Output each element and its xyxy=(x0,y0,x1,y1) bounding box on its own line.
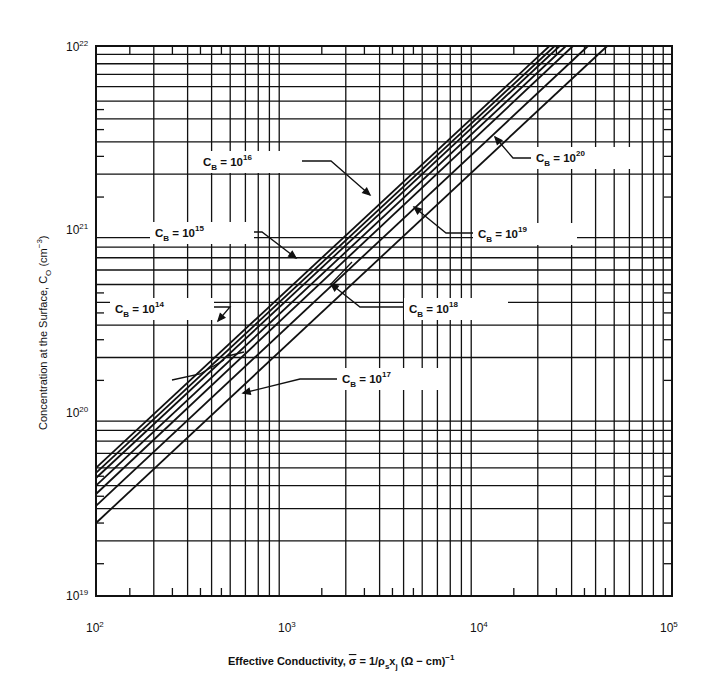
curve-17 xyxy=(96,46,566,486)
leader-line xyxy=(302,161,370,195)
arrowhead xyxy=(243,388,251,394)
x-tick-label: 102 xyxy=(86,620,104,635)
curve-16 xyxy=(96,46,560,478)
x-tick-label: 104 xyxy=(470,620,488,635)
x-axis-title: Effective Conductivity, σ = 1/ρsxj (Ω − … xyxy=(228,653,455,671)
y-axis-title: Concentration at the Surface, CO (cm−3) xyxy=(35,235,53,430)
arrowhead xyxy=(289,251,296,258)
y-tick-label: 1022 xyxy=(66,39,89,54)
y-tick-label: 1020 xyxy=(66,405,89,420)
leader-line xyxy=(331,262,352,284)
leaders xyxy=(172,137,531,394)
y-tick-label: 1019 xyxy=(66,588,89,603)
y-tick-label: 1021 xyxy=(66,222,89,237)
curve-19 xyxy=(96,46,588,506)
leader-line xyxy=(331,284,404,307)
x-tick-label: 105 xyxy=(660,620,678,635)
x-tick-label: 103 xyxy=(278,620,296,635)
label-backgrounds xyxy=(110,147,635,390)
chart: 102 103 104 105 1019 1020 1021 1022 Effe… xyxy=(0,0,714,673)
curve-14 xyxy=(96,46,550,468)
grid xyxy=(96,46,672,596)
leader-line xyxy=(243,379,337,393)
plot-frame xyxy=(96,46,672,596)
curve-15 xyxy=(96,46,555,473)
